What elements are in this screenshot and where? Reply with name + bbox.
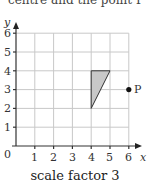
y-tick-label: 4 xyxy=(4,65,11,78)
x-tick-label: 2 xyxy=(50,151,57,164)
x-tick-label: 1 xyxy=(31,151,38,164)
y-tick-label: 2 xyxy=(4,102,11,115)
x-tick-label: 3 xyxy=(69,151,76,164)
x-axis-arrow-icon xyxy=(135,143,142,149)
point-p-marker xyxy=(126,87,131,92)
y-axis-arrow-icon xyxy=(13,22,19,29)
axes xyxy=(12,25,138,149)
x-tick-label: 4 xyxy=(88,151,95,164)
x-axis-label: x xyxy=(140,151,147,164)
x-tick-label: 6 xyxy=(125,151,132,164)
point-p-label: P xyxy=(134,83,142,96)
scale-factor-caption: scale factor 3 xyxy=(0,168,150,183)
y-tick-label: 5 xyxy=(4,46,11,59)
origin-label: 0 xyxy=(4,148,11,161)
y-tick-label: 3 xyxy=(4,83,11,96)
y-tick-label: 1 xyxy=(4,121,11,134)
x-tick-label: 5 xyxy=(106,151,113,164)
y-tick-label: 6 xyxy=(4,27,11,40)
coordinate-grid-diagram: y x 0 P 1 2 3 4 5 6 1 2 3 4 5 6 xyxy=(0,0,150,185)
grid-lines xyxy=(16,33,129,146)
